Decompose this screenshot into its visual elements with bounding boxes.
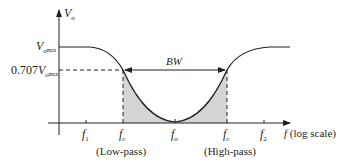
- cutoff-level-label: 0.707Vomax: [11, 64, 58, 79]
- tick-label-fc-high: fc: [223, 128, 229, 143]
- x-axis-label-main: f: [284, 127, 287, 139]
- cutoff-prefix: 0.707: [11, 63, 38, 77]
- y-axis-label: Vo: [64, 7, 75, 22]
- tick-f1-sub: 1: [85, 135, 89, 143]
- tick-f2-sub: 2: [263, 135, 267, 143]
- tick-fc-high-sub: c: [226, 135, 229, 143]
- shaded-region: [123, 70, 227, 123]
- tick-label-f2: f2: [260, 128, 267, 143]
- x-axis-label-suffix: (log scale): [290, 127, 336, 139]
- vo-max-subsub: max: [47, 47, 56, 53]
- tick-label-fo: fo: [171, 128, 178, 143]
- x-axis-label: f (log scale): [284, 128, 336, 139]
- filter-response-diagram: Vo Vomax 0.707Vomax BW f1 fc fo fc f2 f …: [0, 0, 345, 163]
- vo-max-label: Vomax: [36, 40, 56, 55]
- tick-label-fc-low: fc: [119, 128, 125, 143]
- tick-label-f1: f1: [82, 128, 89, 143]
- bandwidth-label: BW: [166, 56, 182, 67]
- cutoff-subsub: max: [49, 71, 58, 77]
- tick-fc-low-sub: c: [122, 135, 125, 143]
- tick-fo-sub: o: [174, 135, 178, 143]
- y-axis-label-sub: o: [71, 14, 75, 22]
- low-pass-label: (Low-pass): [96, 146, 146, 157]
- high-pass-label: (High-pass): [204, 146, 256, 157]
